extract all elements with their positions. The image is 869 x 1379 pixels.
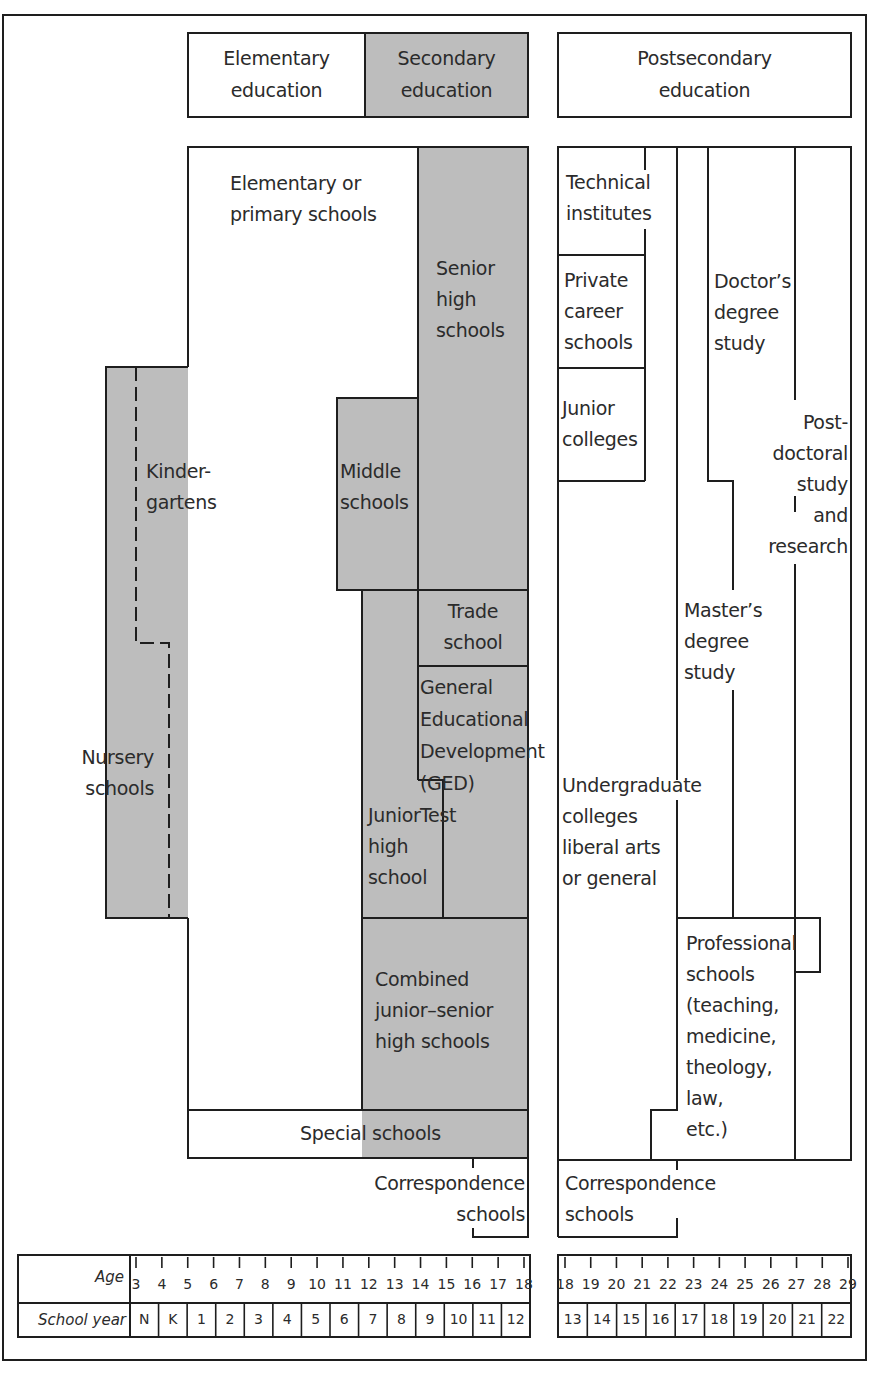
age-tick-label: 24 — [707, 1276, 731, 1292]
age-tick-label: 16 — [460, 1276, 484, 1292]
combined-high-label: Combined junior–senior high schools — [375, 964, 493, 1057]
private-career-label: Private career schools — [564, 265, 633, 358]
ged-label: General Educational Development (GED) Te… — [420, 671, 545, 831]
correspondence-secondary-label: Correspondence schools — [350, 1168, 525, 1230]
doctors-degree-label: Doctor’s degree study — [714, 266, 791, 359]
correspondence-postsecondary-label: Correspondence schools — [565, 1168, 716, 1230]
age-tick-label: 20 — [604, 1276, 628, 1292]
age-tick-label: 12 — [357, 1276, 381, 1292]
senior-high-shade — [418, 147, 528, 590]
header-postsecondary-label: Postsecondary education — [558, 42, 851, 106]
age-tick-label: 22 — [656, 1276, 680, 1292]
age-tick-label: 21 — [630, 1276, 654, 1292]
age-tick-label: 14 — [409, 1276, 433, 1292]
senior-high-label: Senior high schools — [436, 253, 505, 346]
masters-degree-label: Master’s degree study — [684, 595, 762, 688]
elementary-primary-label: Elementary or primary schools — [230, 168, 377, 230]
age-tick-label: 6 — [202, 1276, 226, 1292]
special-schools-label: Special schools — [300, 1118, 441, 1149]
school-year-cell: 8 — [387, 1311, 416, 1327]
school-year-cell: 16 — [646, 1311, 675, 1327]
junior-colleges-label: Junior colleges — [562, 393, 638, 455]
header-elementary-label: Elementary education — [188, 42, 365, 106]
school-year-cell: 12 — [501, 1311, 530, 1327]
age-tick-label: 13 — [383, 1276, 407, 1292]
school-year-cell: 22 — [822, 1311, 851, 1327]
school-year-cell: 11 — [473, 1311, 502, 1327]
school-year-cell: 17 — [675, 1311, 704, 1327]
school-year-cell: 1 — [187, 1311, 216, 1327]
age-tick-label: 4 — [150, 1276, 174, 1292]
age-tick-label: 29 — [836, 1276, 860, 1292]
age-tick-label: 23 — [682, 1276, 706, 1292]
age-tick-label: 26 — [759, 1276, 783, 1292]
age-tick-label: 10 — [305, 1276, 329, 1292]
age-tick-label: 3 — [124, 1276, 148, 1292]
school-year-cell: 14 — [587, 1311, 616, 1327]
school-year-cell: N — [130, 1311, 159, 1327]
age-tick-label: 28 — [810, 1276, 834, 1292]
school-year-cell: 6 — [330, 1311, 359, 1327]
school-year-cell: 15 — [617, 1311, 646, 1327]
middle-schools-label: Middle schools — [340, 456, 409, 518]
junior-high-label: Junior high school — [368, 800, 427, 893]
age-tick-label: 27 — [785, 1276, 809, 1292]
school-year-cell: 20 — [763, 1311, 792, 1327]
school-year-row-label: School year — [20, 1311, 126, 1329]
school-year-cell: 21 — [792, 1311, 821, 1327]
school-year-cell: 3 — [244, 1311, 273, 1327]
age-tick-label: 15 — [434, 1276, 458, 1292]
professional-schools-label: Professional schools (teaching, medicine… — [686, 928, 797, 1145]
school-year-cell: 2 — [216, 1311, 245, 1327]
age-tick-label: 8 — [253, 1276, 277, 1292]
school-year-cell: 18 — [705, 1311, 734, 1327]
age-tick-label: 7 — [227, 1276, 251, 1292]
age-tick-label: 5 — [176, 1276, 200, 1292]
age-tick-label: 18 — [553, 1276, 577, 1292]
undergraduate-label: Undergraduate colleges liberal arts or g… — [562, 770, 702, 894]
school-year-cell: 9 — [416, 1311, 445, 1327]
school-year-cell: 5 — [301, 1311, 330, 1327]
technical-institutes-label: Technical institutes — [566, 167, 651, 229]
age-tick-label: 9 — [279, 1276, 303, 1292]
header-secondary-label: Secondary education — [365, 42, 528, 106]
nursery-label: Nursery schools — [62, 742, 154, 804]
school-year-cell: 7 — [359, 1311, 388, 1327]
school-year-cell: 13 — [558, 1311, 587, 1327]
age-tick-label: 17 — [486, 1276, 510, 1292]
age-tick-label: 18 — [512, 1276, 536, 1292]
age-tick-label: 19 — [579, 1276, 603, 1292]
school-year-cell: 19 — [734, 1311, 763, 1327]
school-year-cell: 4 — [273, 1311, 302, 1327]
postdoctoral-label: Post- doctoral study and research — [740, 407, 848, 562]
kindergartens-label: Kinder- gartens — [146, 456, 217, 518]
age-row-label: Age — [20, 1268, 124, 1286]
school-year-cell: 10 — [444, 1311, 473, 1327]
school-year-cell: K — [159, 1311, 188, 1327]
age-tick-label: 11 — [331, 1276, 355, 1292]
age-tick-label: 25 — [733, 1276, 757, 1292]
trade-school-label: Trade school — [418, 596, 528, 658]
